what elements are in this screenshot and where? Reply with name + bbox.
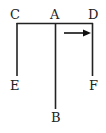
label-d: D — [88, 7, 98, 22]
label-a: A — [49, 7, 60, 22]
arrow-right-icon — [64, 30, 91, 37]
label-c: C — [10, 7, 20, 22]
label-e: E — [10, 78, 20, 93]
label-b: B — [51, 110, 61, 125]
diagram: C A D E F B — [0, 0, 106, 133]
label-f: F — [89, 78, 98, 93]
